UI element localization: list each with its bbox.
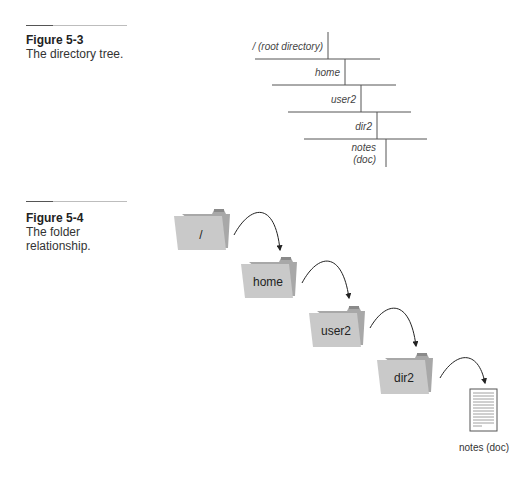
folder-label: dir2 (394, 371, 414, 385)
tree-node-dir2: dir2 (355, 121, 372, 132)
tree-node-notes-type: (doc) (353, 154, 376, 165)
arrow-icon (234, 212, 280, 250)
tree-node-home: home (315, 67, 340, 78)
folder-home: home (241, 257, 297, 298)
document-notes: notes (doc) (459, 389, 509, 453)
folder-label: user2 (321, 324, 351, 338)
document-label: notes (doc) (459, 442, 509, 453)
figures-canvas: / (root directory) home user2 dir2 notes… (0, 0, 531, 478)
folder-label: home (253, 275, 283, 289)
tree-node-notes: notes (352, 142, 376, 153)
arrow-icon (440, 358, 485, 383)
arrow-icon (302, 261, 349, 298)
tree-node-user2: user2 (331, 94, 356, 105)
folder-root: / (174, 209, 230, 250)
folder-dir2: dir2 (377, 353, 433, 394)
arrow-icon (370, 308, 416, 346)
folder-user2: user2 (309, 306, 365, 347)
tree-node-root: / (root directory) (251, 41, 323, 52)
document-icon (470, 389, 497, 431)
